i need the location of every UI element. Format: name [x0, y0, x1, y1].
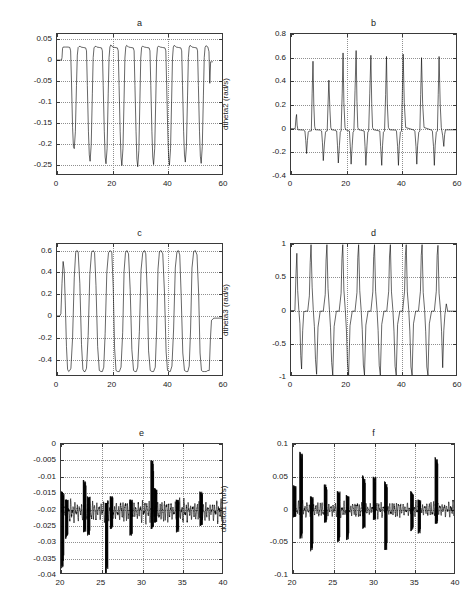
data-trace-f: [293, 444, 455, 574]
xtick-label: 25: [328, 578, 337, 587]
xtick-label: 40: [451, 578, 460, 587]
xtick-label: 20: [288, 578, 297, 587]
ytick-label: -0.1: [238, 570, 288, 579]
ytick-label: -0.05: [238, 537, 288, 546]
ytick-label: 0.05: [238, 471, 288, 480]
ytick-label: 0: [238, 504, 288, 513]
plot-area-f: [292, 443, 455, 574]
subplot-f: f0.10.050-0.05-0.12025303540ddelta1 (m/s…: [0, 0, 467, 606]
figure-root: a0.050-0.05-0.1-0.15-0.2-0.250204060thet…: [0, 0, 467, 606]
xtick-label: 30: [369, 578, 378, 587]
ytick-label: 0.1: [238, 439, 288, 448]
y-axis-label-f: ddelta1 (m/s): [219, 485, 228, 532]
subplot-title-f: f: [292, 428, 455, 439]
series-line: [293, 452, 455, 551]
xtick-label: 35: [410, 578, 419, 587]
